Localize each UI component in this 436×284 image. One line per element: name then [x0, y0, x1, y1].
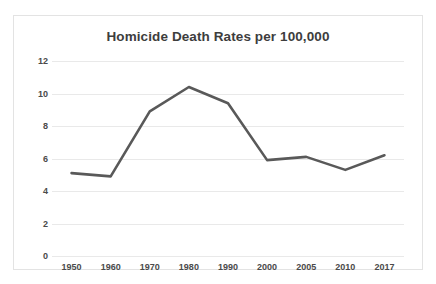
x-tick-label: 2000 [257, 262, 277, 272]
x-axis-labels: 195019601970198019902000200520102017 [52, 260, 404, 278]
y-tick-label: 2 [22, 219, 48, 229]
y-tick-label: 12 [22, 56, 48, 66]
x-tick-label: 1950 [62, 262, 82, 272]
y-tick-label: 0 [22, 251, 48, 261]
x-tick-label: 1990 [218, 262, 238, 272]
x-tick-label: 1960 [101, 262, 121, 272]
plot-area [52, 61, 404, 256]
chart-title: Homicide Death Rates per 100,000 [14, 29, 422, 44]
y-tick-label: 4 [22, 186, 48, 196]
x-tick-label: 1970 [140, 262, 160, 272]
y-tick-label: 6 [22, 154, 48, 164]
chart-card: Homicide Death Rates per 100,000 0246810… [13, 15, 423, 270]
y-axis-labels: 024681012 [18, 61, 48, 256]
x-tick-label: 2005 [296, 262, 316, 272]
series-polyline [72, 87, 385, 176]
y-tick-label: 10 [22, 89, 48, 99]
x-tick-label: 1980 [179, 262, 199, 272]
gridline [52, 256, 404, 257]
x-tick-label: 2010 [335, 262, 355, 272]
y-tick-label: 8 [22, 121, 48, 131]
x-tick-label: 2017 [374, 262, 394, 272]
line-series [52, 61, 404, 256]
